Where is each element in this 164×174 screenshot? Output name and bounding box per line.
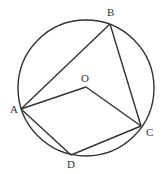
label-a: A bbox=[10, 103, 18, 115]
segment-ad bbox=[21, 109, 71, 155]
label-d: D bbox=[67, 158, 75, 170]
segment-ao bbox=[21, 87, 86, 109]
circle-o bbox=[18, 20, 154, 156]
label-b: B bbox=[107, 6, 114, 18]
segment-ab bbox=[21, 24, 110, 109]
segment-oc bbox=[86, 87, 141, 126]
segment-dc bbox=[71, 126, 141, 155]
geometry-diagram: A B C D O bbox=[0, 0, 164, 174]
segment-bc bbox=[110, 24, 141, 126]
label-c: C bbox=[146, 126, 153, 138]
label-o: O bbox=[81, 72, 89, 84]
